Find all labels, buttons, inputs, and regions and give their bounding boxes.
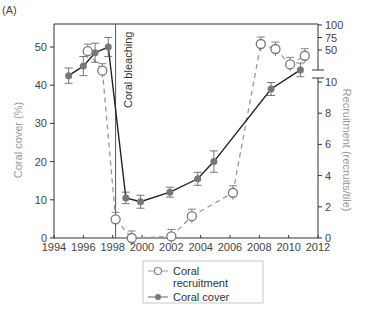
x-tick-label: 2006 — [218, 241, 242, 253]
right-axis-title: Recruitment (recruits/tile) — [341, 89, 353, 212]
recruitment-point — [228, 188, 237, 197]
y-right-tick-label: 10 — [325, 76, 337, 88]
bleaching-annotation: Coral bleaching — [122, 32, 134, 108]
y-right-tick-label: 8 — [325, 107, 331, 119]
y-right-tick-label: 4 — [325, 170, 331, 182]
recruitment-point — [300, 51, 309, 60]
recruitment-point — [111, 215, 120, 224]
y-right-tick-label: 2 — [325, 201, 331, 213]
cover-point — [297, 66, 304, 73]
recruitment-point — [256, 40, 265, 49]
recruitment-point — [127, 234, 136, 243]
legend-label-recruitment-2: recruitment — [173, 277, 228, 289]
y-left-tick-label: 30 — [35, 117, 47, 129]
recruitment-point — [286, 60, 295, 69]
y-right-tick-label: 75 — [325, 32, 337, 44]
y-right-tick-label: 0 — [325, 232, 331, 244]
legend-filled-circle-icon — [155, 294, 161, 300]
y-left-tick-label: 0 — [41, 232, 47, 244]
x-tick-label: 2010 — [276, 241, 300, 253]
cover-point — [80, 63, 87, 70]
cover-point — [210, 158, 217, 165]
y-left-tick-label: 40 — [35, 79, 47, 91]
recruitment-point — [187, 212, 196, 221]
recruitment-point — [271, 45, 280, 54]
cover-point — [105, 44, 112, 51]
coral-chart: (A) 199419961998200020022004200620082010… — [0, 0, 365, 319]
cover-point — [137, 198, 144, 205]
legend-label-cover: Coral cover — [173, 291, 230, 303]
x-tick-label: 2008 — [247, 241, 271, 253]
x-tick-label: 1998 — [100, 241, 124, 253]
legend: Coral recruitment Coral cover — [143, 261, 263, 303]
panel-label: (A) — [2, 4, 17, 16]
legend-label-recruitment-1: Coral — [173, 265, 199, 277]
recruitment-point — [167, 232, 176, 241]
x-tick-label: 2004 — [188, 241, 212, 253]
y-left-tick-label: 50 — [35, 41, 47, 53]
y-left-tick-label: 10 — [35, 194, 47, 206]
cover-point — [194, 175, 201, 182]
cover-point — [65, 72, 72, 79]
recruitment-point — [83, 47, 92, 56]
cover-point — [122, 194, 129, 201]
y-right-tick-label: 6 — [325, 138, 331, 150]
cover-point — [166, 189, 173, 196]
y-right-tick-label: 50 — [325, 44, 337, 56]
left-axis-title: Coral cover (%) — [12, 102, 24, 178]
recruitment-point — [98, 66, 107, 75]
x-tick-label: 1996 — [71, 241, 95, 253]
y-left-tick-label: 20 — [35, 156, 47, 168]
series-layer — [65, 37, 310, 245]
cover-point — [268, 86, 275, 93]
legend-open-circle-icon — [155, 268, 162, 275]
y-right-tick-label: 100 — [325, 19, 343, 31]
